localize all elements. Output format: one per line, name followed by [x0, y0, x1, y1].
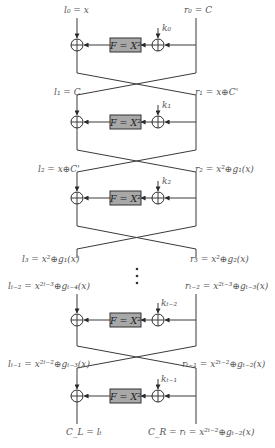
label-lt2: lₜ₋₂ = x²ᵗ⁻³⊕gₜ₋₄(x): [8, 281, 90, 291]
xor-key-icon: [152, 192, 164, 204]
round-t-2: lₜ₋₂ = x²ᵗ⁻³⊕gₜ₋₄(x) rₜ₋₂ = x²ᵗ⁻³⊕gₜ₋₃(x…: [8, 281, 269, 368]
key-k2: k₂: [162, 176, 171, 186]
round-0: l₀ = x r₀ = C k₀ F = X²: [64, 5, 212, 95]
svg-text:F = X²: F = X²: [109, 40, 141, 51]
xor-data-icon: [71, 192, 83, 204]
label-lt1: lₜ₋₁ = x²ᵗ⁻²⊕gₜ₋₃(x): [8, 359, 90, 369]
label-rt2: rₜ₋₂ = x²ᵗ⁻³⊕gₜ₋₃(x): [185, 281, 269, 291]
label-rt1: rₜ₋₁ = x²ᵗ⁻²⊕gₜ₋₂(x): [182, 359, 266, 369]
xor-key-icon: [152, 390, 164, 402]
feistel-diagram: l₀ = x r₀ = C k₀ F = X² l₁ = C r₁ = x⊕C'…: [0, 0, 275, 448]
svg-text:F = X²: F = X²: [109, 117, 141, 128]
key-kt2: kₜ₋₂: [161, 298, 177, 308]
xor-data-icon: [71, 314, 83, 326]
xor-key-icon: [152, 116, 164, 128]
ellipsis-dots: [136, 268, 139, 285]
round-1: l₁ = C r₁ = x⊕C' k₁ F = X²: [54, 87, 238, 172]
xor-data-icon: [71, 116, 83, 128]
xor-key-icon: [152, 314, 164, 326]
svg-text:F = X²: F = X²: [109, 391, 141, 402]
label-l0: l₀ = x: [64, 5, 89, 15]
label-CR: C_R = rₜ = x²ᵗ⁻²⊕gₜ₋₂(x): [148, 427, 255, 438]
svg-text:F = X²: F = X²: [109, 193, 141, 204]
key-kt1: kₜ₋₁: [161, 374, 177, 384]
label-r3: r₃ = x²⊕g₂(x): [190, 254, 249, 264]
xor-data-icon: [71, 39, 83, 51]
label-r2: r₂ = x²⊕g₁(x): [195, 164, 254, 174]
label-l2: l₂ = x⊕C': [38, 164, 80, 174]
label-CL: C_L = lₜ: [66, 427, 103, 438]
xor-key-icon: [152, 39, 164, 51]
svg-text:F = X²: F = X²: [109, 315, 141, 326]
label-r0: r₀ = C: [184, 5, 212, 15]
key-k0: k₀: [162, 23, 171, 33]
label-l3: l₃ = x²⊕g₁(x): [22, 254, 80, 264]
label-r1: r₁ = x⊕C': [195, 87, 238, 97]
xor-data-icon: [71, 390, 83, 402]
round-t-1: lₜ₋₁ = x²ᵗ⁻²⊕gₜ₋₃(x) rₜ₋₁ = x²ᵗ⁻²⊕gₜ₋₂(x…: [8, 359, 266, 424]
round-2: l₂ = x⊕C' r₂ = x²⊕g₁(x) k₂ F = X²: [38, 164, 254, 258]
key-k1: k₁: [162, 100, 171, 110]
